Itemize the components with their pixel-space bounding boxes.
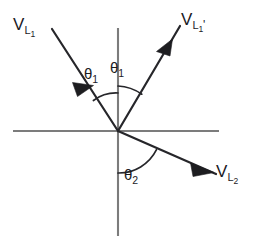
vector-label-v-l2-base: V (216, 162, 227, 181)
angle-label-theta2-sub: 2 (132, 174, 138, 186)
vector-label-v-l2: VL2 (216, 163, 238, 186)
vector-v-l1-prime (118, 26, 180, 131)
vector-label-v-l1-prime-base: V (181, 10, 192, 29)
angle-label-theta1-right: θ1 (110, 60, 124, 79)
vector-angle-diagram: VL1 VL1' VL2 θ1 θ1 θ2 (0, 0, 256, 249)
diagram-canvas (0, 0, 256, 249)
angle-label-theta2: θ2 (124, 167, 138, 186)
vector-label-v-l1-prime: VL1' (181, 11, 205, 34)
vector-label-v-l1-subsub: 1 (30, 30, 35, 40)
vector-label-v-l2-subsub: 2 (233, 177, 238, 187)
vector-v-l2-arrowhead (191, 163, 215, 177)
vector-label-v-l1: VL1 (13, 16, 35, 39)
angle-label-theta1-left-sub: 1 (92, 73, 98, 85)
vector-label-v-l1-prime-mark: ' (203, 18, 205, 32)
vector-label-v-l1-base: V (13, 15, 24, 34)
angle-label-theta1-right-sub: 1 (118, 67, 124, 79)
angle-label-theta1-left: θ1 (84, 66, 98, 85)
angle-arc-theta1-right (118, 86, 142, 94)
vector-v-l1-prime-arrowhead (157, 39, 173, 56)
